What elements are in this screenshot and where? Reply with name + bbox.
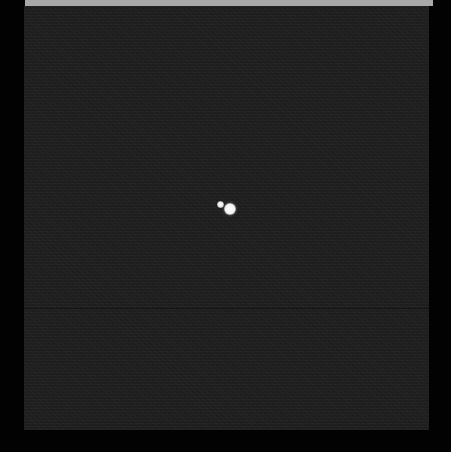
image-frame [0,0,451,452]
primary-body [224,203,236,215]
companion-body [217,201,224,208]
star-field [24,6,429,430]
scan-artifact [24,308,429,309]
